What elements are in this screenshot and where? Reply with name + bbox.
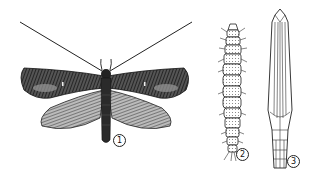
adult-moth [20, 22, 192, 143]
illustration-canvas [0, 0, 313, 182]
panel-label-1: 1 [113, 134, 126, 147]
pupa [268, 9, 292, 168]
panel-label-3: 3 [287, 155, 300, 168]
larva-head [228, 24, 238, 30]
larva [218, 24, 247, 161]
moth-head [101, 69, 111, 79]
left-antenna [20, 22, 102, 71]
panel-label-2: 2 [236, 148, 249, 161]
moth-body [101, 78, 111, 143]
right-antenna [110, 22, 192, 71]
